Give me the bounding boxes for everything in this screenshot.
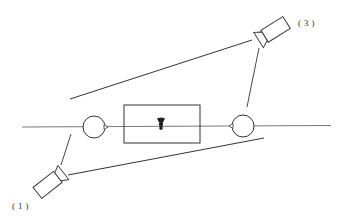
upper-sight-line: [70, 40, 252, 99]
right-node-circle: [232, 115, 254, 137]
connector-to-camera-1: [61, 134, 71, 165]
connector-to-camera-3: [247, 48, 259, 107]
diagram-canvas: [0, 0, 344, 224]
right-node-arrow-icon: [229, 124, 233, 129]
left-node-circle: [83, 116, 105, 138]
camera-3-label: (3): [298, 18, 318, 28]
camera-3-icon: [254, 15, 292, 48]
marker-icon: [157, 118, 164, 131]
left-node-arrow-icon: [104, 125, 108, 130]
lower-sight-line: [68, 138, 264, 175]
camera-1-label: (1): [12, 201, 32, 211]
camera-1-icon: [32, 165, 69, 200]
axis-line: [22, 126, 331, 128]
